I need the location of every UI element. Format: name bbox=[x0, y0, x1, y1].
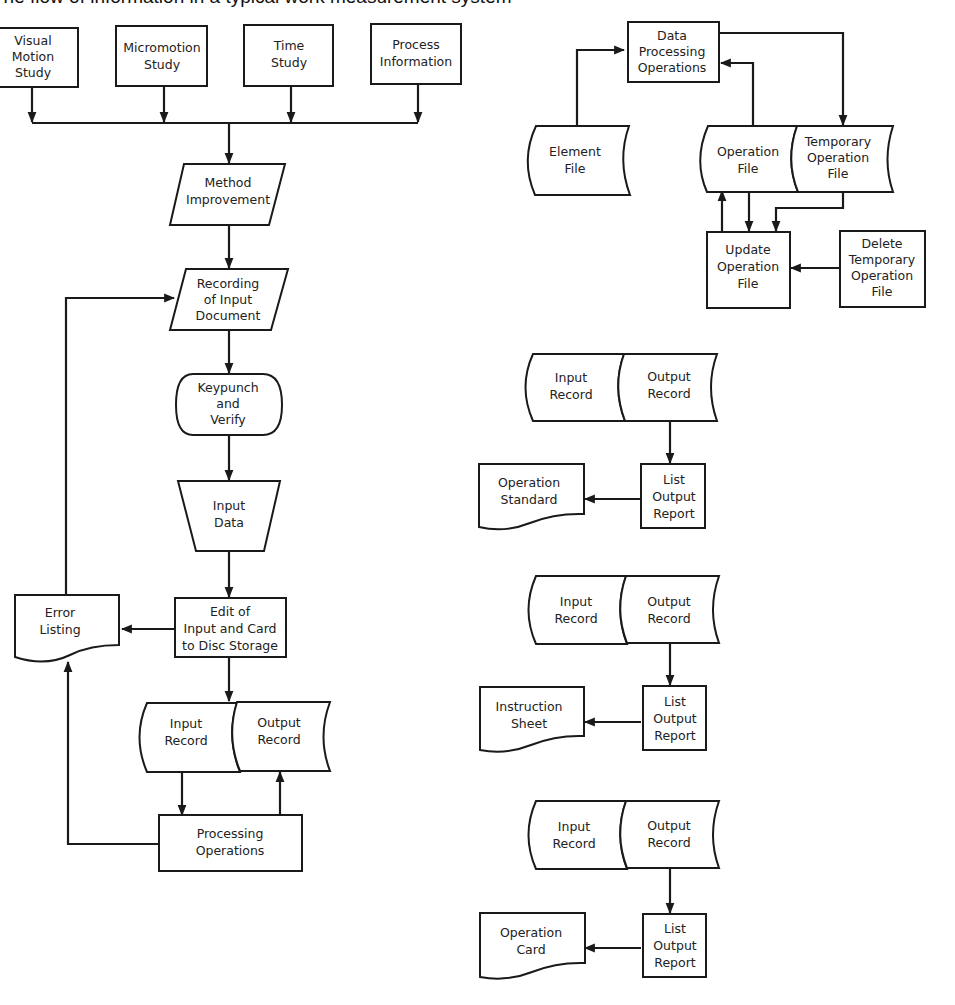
node-label: Motion bbox=[12, 49, 54, 64]
storage-shape bbox=[529, 576, 628, 644]
node-visual-motion-study[interactable]: VisualMotionStudy bbox=[0, 28, 78, 87]
node-label: Input bbox=[560, 594, 592, 609]
node-label: Error bbox=[45, 605, 76, 620]
node-label: Output bbox=[647, 818, 691, 833]
node-label: File bbox=[872, 284, 893, 299]
node-label: Data bbox=[657, 28, 687, 43]
node-data-processing-operations[interactable]: DataProcessingOperations bbox=[628, 22, 719, 82]
node-label: to Disc Storage bbox=[182, 638, 278, 653]
node-label: Output bbox=[653, 711, 697, 726]
node-label: Record bbox=[257, 732, 300, 747]
storage-shape bbox=[700, 126, 798, 192]
node-label: File bbox=[828, 166, 849, 181]
node-edit-input[interactable]: Edit ofInput and Cardto Disc Storage bbox=[175, 598, 286, 657]
node-g3-list-output-report[interactable]: ListOutputReport bbox=[643, 914, 706, 977]
node-keypunch-verify[interactable]: KeypunchandVerify bbox=[176, 374, 282, 435]
node-label: Report bbox=[654, 955, 696, 970]
node-label: Record bbox=[164, 733, 207, 748]
node-label: Visual bbox=[14, 33, 51, 48]
node-label: Data bbox=[214, 515, 244, 530]
storage-shape bbox=[529, 801, 628, 869]
node-label: Record bbox=[552, 836, 595, 851]
node-temporary-operation-file[interactable]: TemporaryOperationFile bbox=[791, 126, 893, 192]
storage-shape bbox=[620, 576, 719, 643]
edge-temp-to-update bbox=[776, 192, 843, 231]
node-update-operation-file[interactable]: UpdateOperationFile bbox=[707, 232, 790, 308]
node-g1-operation-standard[interactable]: OperationStandard bbox=[479, 464, 584, 529]
edge-operation-file-to-dataproc bbox=[721, 63, 753, 125]
node-label: Listing bbox=[39, 622, 80, 637]
node-method-improvement[interactable]: MethodImprovement bbox=[170, 164, 285, 225]
node-label: Temporary bbox=[848, 252, 916, 267]
node-label: Record bbox=[647, 386, 690, 401]
node-label: Operations bbox=[196, 843, 265, 858]
node-input-data[interactable]: InputData bbox=[178, 481, 280, 551]
node-label: File bbox=[565, 161, 586, 176]
node-g3-operation-card[interactable]: OperationCard bbox=[480, 913, 585, 979]
node-label: Update bbox=[725, 242, 771, 257]
node-label: of Input bbox=[204, 292, 252, 307]
node-label: Temporary bbox=[804, 134, 872, 149]
node-g3-output-record[interactable]: OutputRecord bbox=[620, 801, 719, 868]
node-process-information[interactable]: ProcessInformation bbox=[371, 24, 461, 84]
node-label: Record bbox=[647, 611, 690, 626]
node-element-file[interactable]: ElementFile bbox=[528, 126, 630, 195]
node-label: Recording bbox=[197, 276, 260, 291]
node-label: Output bbox=[652, 489, 696, 504]
node-label: Processing bbox=[197, 826, 264, 841]
node-label: Study bbox=[15, 65, 52, 80]
node-label: Standard bbox=[501, 492, 558, 507]
node-label: Record bbox=[647, 835, 690, 850]
node-label: Operation bbox=[717, 144, 779, 159]
node-delete-temporary-operation-file[interactable]: DeleteTemporaryOperationFile bbox=[840, 231, 925, 307]
node-main-output-record[interactable]: OutputRecord bbox=[232, 702, 330, 771]
node-operation-file[interactable]: OperationFile bbox=[700, 126, 798, 192]
node-label: Input bbox=[555, 370, 587, 385]
edge-dataproc-to-temp bbox=[720, 33, 843, 125]
node-error-listing[interactable]: ErrorListing bbox=[15, 595, 119, 662]
node-processing-operations[interactable]: ProcessingOperations bbox=[159, 815, 302, 871]
svg-text:Recordingof InputDocument: Recordingof InputDocument bbox=[196, 276, 261, 323]
node-label: Micromotion bbox=[123, 40, 200, 55]
node-g1-input-record[interactable]: InputRecord bbox=[526, 354, 626, 421]
process-box bbox=[116, 26, 207, 86]
node-label: Report bbox=[654, 728, 696, 743]
node-label: Time bbox=[273, 38, 305, 53]
node-label: Sheet bbox=[511, 716, 547, 731]
node-g1-output-record[interactable]: OutputRecord bbox=[618, 354, 717, 421]
node-label: Edit of bbox=[210, 604, 251, 619]
node-label: Study bbox=[271, 55, 308, 70]
node-label: Output bbox=[647, 594, 691, 609]
node-label: Element bbox=[549, 144, 601, 159]
node-g3-input-record[interactable]: InputRecord bbox=[529, 801, 628, 869]
node-label: Record bbox=[554, 611, 597, 626]
node-g2-output-record[interactable]: OutputRecord bbox=[620, 576, 719, 643]
node-label: Output bbox=[257, 715, 301, 730]
node-recording-input-document[interactable]: Recordingof InputDocument bbox=[170, 269, 288, 330]
node-label: Report bbox=[653, 506, 695, 521]
node-g2-input-record[interactable]: InputRecord bbox=[529, 576, 628, 644]
node-main-input-record[interactable]: InputRecord bbox=[140, 703, 241, 772]
edge-error-to-recording bbox=[66, 298, 174, 594]
node-label: List bbox=[664, 921, 686, 936]
node-label: Input and Card bbox=[183, 621, 276, 636]
node-label: Operation bbox=[500, 925, 562, 940]
node-g2-instruction-sheet[interactable]: InstructionSheet bbox=[480, 687, 584, 752]
edge-element-to-dataproc bbox=[577, 50, 624, 125]
svg-text:VisualMotionStudy: VisualMotionStudy bbox=[12, 33, 54, 80]
node-micromotion-study[interactable]: MicromotionStudy bbox=[116, 26, 207, 86]
node-label: Operation bbox=[851, 268, 913, 283]
node-label: Verify bbox=[210, 412, 246, 427]
node-time-study[interactable]: TimeStudy bbox=[244, 25, 333, 86]
flowchart-canvas: VisualMotionStudy MicromotionStudy TimeS… bbox=[0, 0, 955, 1005]
node-g2-list-output-report[interactable]: ListOutputReport bbox=[643, 686, 706, 750]
node-label: Delete bbox=[861, 236, 902, 251]
node-label: Input bbox=[213, 498, 245, 513]
node-label: Process bbox=[392, 37, 439, 52]
node-label: Input bbox=[558, 819, 590, 834]
node-label: Operations bbox=[638, 60, 707, 75]
node-g1-list-output-report[interactable]: ListOutputReport bbox=[641, 464, 705, 528]
node-label: Instruction bbox=[496, 699, 563, 714]
node-label: Processing bbox=[639, 44, 706, 59]
node-label: Improvement bbox=[186, 192, 270, 207]
